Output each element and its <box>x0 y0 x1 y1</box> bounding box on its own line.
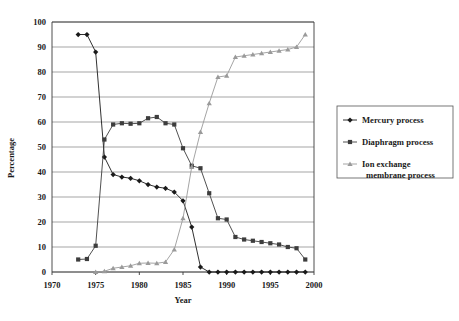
data-point-marker <box>277 242 281 246</box>
data-point-marker <box>180 216 185 221</box>
data-point-marker <box>233 235 237 239</box>
y-tick-label: 10 <box>38 242 47 252</box>
y-tick-label: 90 <box>38 42 47 52</box>
series-3 <box>93 32 308 274</box>
series-line <box>78 117 305 260</box>
data-point-marker <box>154 184 159 189</box>
data-point-marker <box>225 217 229 221</box>
data-point-marker <box>181 146 185 150</box>
x-tick-label: 1980 <box>131 280 148 290</box>
data-series-group <box>76 32 308 275</box>
data-point-marker <box>155 115 159 119</box>
data-point-marker <box>189 224 194 229</box>
data-point-marker <box>294 246 298 250</box>
legend: Mercury processDiaphragm processIon exch… <box>337 106 453 180</box>
data-point-marker <box>242 237 246 241</box>
x-tick-label: 1970 <box>44 280 61 290</box>
x-tick-label: 1975 <box>87 280 104 290</box>
data-point-marker <box>146 116 150 120</box>
data-point-marker <box>286 245 290 249</box>
legend-item-1[interactable]: Mercury process <box>343 115 424 125</box>
legend-item-3[interactable]: Ion exchangemembrane process <box>343 159 435 180</box>
data-point-marker <box>172 247 177 252</box>
x-tick-label: 2000 <box>306 280 323 290</box>
data-point-marker <box>85 257 89 261</box>
data-point-marker <box>303 32 308 37</box>
data-point-marker <box>172 122 176 126</box>
y-tick-label: 0 <box>42 267 46 277</box>
series-2 <box>76 115 307 262</box>
x-tick-label: 1990 <box>218 280 235 290</box>
data-point-marker <box>137 121 141 125</box>
data-point-marker <box>207 269 212 274</box>
data-point-marker <box>102 137 106 141</box>
data-point-marker <box>120 121 124 125</box>
line-chart: 1009080706050403020100 19701975198019851… <box>0 0 459 321</box>
data-point-marker <box>129 122 133 126</box>
data-point-marker <box>294 269 299 274</box>
data-point-marker <box>84 32 89 37</box>
data-point-marker <box>268 241 272 245</box>
x-tick-label: 1995 <box>262 280 279 290</box>
legend-item-2[interactable]: Diaphragm process <box>343 137 434 147</box>
data-point-marker <box>137 178 142 183</box>
data-point-marker <box>198 166 202 170</box>
x-axis-title: Year <box>175 295 192 305</box>
data-point-marker <box>76 257 80 261</box>
data-point-marker <box>242 269 247 274</box>
data-point-marker <box>93 49 98 54</box>
y-tick-label: 40 <box>38 167 47 177</box>
data-point-marker <box>119 174 124 179</box>
y-tick-label: 30 <box>38 192 47 202</box>
data-point-marker <box>268 269 273 274</box>
data-point-marker <box>224 73 229 78</box>
legend-label: Ion exchange <box>362 159 411 169</box>
series-line <box>78 35 305 273</box>
y-tick-label: 70 <box>38 92 47 102</box>
data-point-marker <box>260 240 264 244</box>
y-tick-label: 100 <box>33 17 46 27</box>
legend-label: membrane process <box>366 170 435 180</box>
data-point-marker <box>250 269 255 274</box>
y-axis-title: Percentage <box>6 138 16 178</box>
data-point-marker <box>303 269 308 274</box>
y-tick-label: 80 <box>38 67 47 77</box>
y-tick-label: 60 <box>38 117 47 127</box>
data-point-marker <box>216 216 220 220</box>
figure-container: 1009080706050403020100 19701975198019851… <box>0 0 459 321</box>
data-point-marker <box>224 269 229 274</box>
data-point-marker <box>94 244 98 248</box>
data-point-marker <box>198 129 203 134</box>
legend-label: Diaphragm process <box>362 137 434 147</box>
data-point-marker <box>163 186 168 191</box>
series-line <box>96 35 306 273</box>
data-point-marker <box>198 264 203 269</box>
x-tick-label: 1985 <box>175 280 192 290</box>
data-point-marker <box>207 191 211 195</box>
legend-label: Mercury process <box>362 115 424 125</box>
y-tick-label: 20 <box>38 217 47 227</box>
data-point-marker <box>207 101 212 106</box>
data-point-marker <box>285 269 290 274</box>
data-point-marker <box>276 269 281 274</box>
series-1 <box>76 32 308 275</box>
y-tick-label: 50 <box>38 142 47 152</box>
data-point-marker <box>145 182 150 187</box>
data-point-marker <box>215 269 220 274</box>
legend-marker-icon <box>347 117 352 122</box>
x-tick-labels: 1970197519801985199019952000 <box>44 280 323 290</box>
data-point-marker <box>233 269 238 274</box>
data-point-marker <box>111 122 115 126</box>
data-point-marker <box>303 257 307 261</box>
data-point-marker <box>111 172 116 177</box>
legend-marker-icon <box>348 140 352 144</box>
data-point-marker <box>259 269 264 274</box>
data-point-marker <box>128 176 133 181</box>
data-point-marker <box>76 32 81 37</box>
data-point-marker <box>251 239 255 243</box>
y-tick-labels: 1009080706050403020100 <box>33 17 46 277</box>
data-point-marker <box>163 121 167 125</box>
